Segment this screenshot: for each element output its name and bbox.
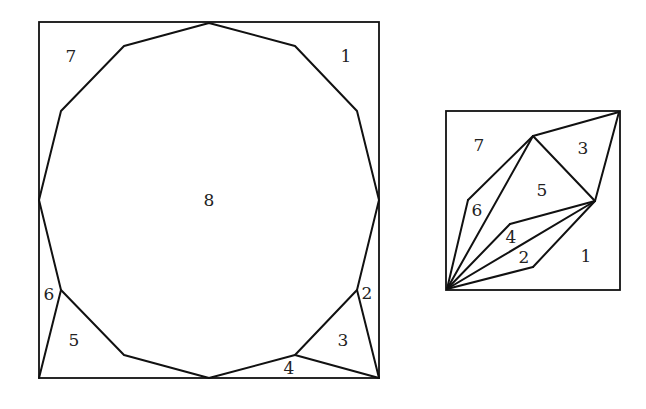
left-label-2: 2	[362, 285, 373, 302]
left-label-5: 5	[69, 332, 80, 349]
cut-line	[510, 201, 595, 224]
right-label-1: 1	[581, 248, 592, 265]
cut-line	[447, 201, 595, 289]
right-label-6: 6	[472, 202, 483, 219]
cut-line	[595, 112, 619, 201]
dissection-diagram	[0, 0, 646, 409]
cut-line	[357, 290, 379, 378]
cut-line	[447, 200, 468, 289]
right-label-5: 5	[537, 182, 548, 199]
left-label-4: 4	[284, 360, 295, 377]
left-label-8: 8	[204, 192, 215, 209]
left-label-7: 7	[66, 48, 77, 65]
cut-line	[533, 112, 619, 136]
right-label-3: 3	[578, 140, 589, 157]
cut-line	[447, 267, 533, 289]
left-label-3: 3	[338, 332, 349, 349]
left-label-1: 1	[341, 48, 352, 65]
right-label-7: 7	[474, 137, 485, 154]
left-label-6: 6	[44, 286, 55, 303]
cut-line	[295, 355, 379, 378]
right-label-4: 4	[506, 229, 517, 246]
right-label-2: 2	[519, 249, 530, 266]
